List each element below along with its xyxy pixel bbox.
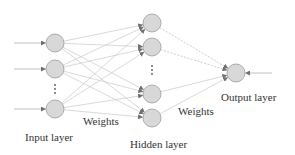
weights-label-input-hidden: Weights (83, 115, 119, 127)
hidden-ellipsis (151, 65, 153, 75)
hidden-node-1 (143, 38, 161, 56)
input-node-2 (46, 100, 64, 118)
input-ellipsis (54, 84, 56, 94)
edge-hidden-1-output (161, 50, 227, 71)
edge-hidden-0-output (160, 28, 228, 69)
edge-input-0-hidden-2 (63, 47, 144, 89)
output-node-0 (227, 64, 245, 82)
edge-input-2-hidden-0 (62, 29, 145, 103)
neural-network-diagram: Input layer Weights Hidden layer Weights… (0, 0, 295, 155)
hidden-layer-label: Hidden layer (130, 138, 187, 150)
output-layer-label: Output layer (221, 91, 277, 103)
edge-input-1-hidden-1 (64, 49, 143, 67)
ellipses (54, 65, 153, 94)
input-node-1 (46, 60, 64, 78)
edge-input-1-hidden-2 (64, 71, 143, 91)
hidden-node-2 (143, 85, 161, 103)
input-layer-label: Input layer (25, 131, 73, 143)
input-node-0 (46, 34, 64, 52)
nodes (46, 14, 245, 127)
hidden-node-0 (143, 14, 161, 32)
weights-label-hidden-output: Weights (178, 105, 214, 117)
hidden-node-3 (143, 109, 161, 127)
edge-input-1-hidden-3 (63, 73, 143, 114)
connections (62, 25, 228, 117)
